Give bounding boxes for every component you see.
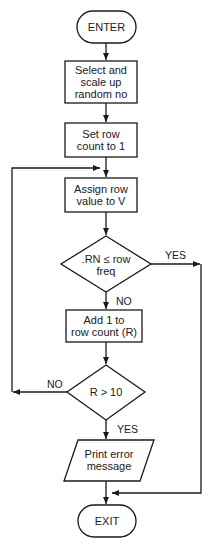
addone-label: Add 1 to row count (R) — [66, 314, 142, 338]
select-label-line-3: random no — [65, 88, 137, 100]
enter-label: ENTER — [77, 21, 136, 33]
select-label: Select and scale up random no — [65, 64, 137, 100]
cond1-no-label: NO — [116, 296, 132, 307]
cond1-label-line-1: .RN ≤ row — [66, 253, 146, 265]
cond1-yes-label: YES — [165, 250, 186, 261]
assign-label-line-1: Assign row — [65, 183, 137, 195]
print-label-line-1: Print error — [66, 448, 152, 460]
print-label: Print error message — [66, 448, 152, 472]
addone-label-line-2: row count (R) — [66, 326, 142, 338]
exit-label: EXIT — [78, 515, 136, 527]
setrow-label: Set row count to 1 — [65, 128, 137, 152]
setrow-label-line-1: Set row — [65, 128, 137, 140]
addone-label-line-1: Add 1 to — [66, 314, 142, 326]
assign-label: Assign row value to V — [65, 183, 137, 207]
cond1-label: .RN ≤ row freq — [66, 253, 146, 277]
select-label-line-2: scale up — [65, 76, 137, 88]
cond2-label: R > 10 — [67, 386, 145, 398]
setrow-label-line-2: count to 1 — [65, 140, 137, 152]
cond1-label-line-2: freq — [66, 265, 146, 277]
print-label-line-2: message — [66, 460, 152, 472]
cond2-yes-label: YES — [117, 424, 138, 435]
select-label-line-1: Select and — [65, 64, 137, 76]
assign-label-line-2: value to V — [65, 195, 137, 207]
cond2-no-label: NO — [47, 379, 63, 390]
